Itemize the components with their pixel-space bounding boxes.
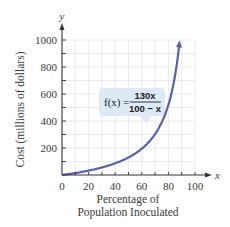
y-tick-label: 200	[41, 142, 58, 154]
x-tick-label: 0	[59, 180, 65, 192]
x-axis-arrow-icon	[205, 173, 212, 178]
y-tick-label: 800	[41, 61, 58, 73]
y-tick-label: 400	[41, 115, 58, 127]
x-axis-variable: x	[214, 169, 220, 181]
x-tick-label: 100	[187, 180, 204, 192]
x-tick-label: 60	[136, 180, 148, 192]
x-tick-label: 80	[163, 180, 175, 192]
curve-arrow-icon	[176, 40, 182, 47]
y-axis-arrow-icon	[60, 23, 65, 30]
x-axis-title-line-1: Percentage of	[97, 193, 160, 206]
y-axis-title: Cost (millions of dollars)	[14, 51, 27, 167]
callout-function-label: f(x) =	[104, 96, 129, 109]
callout-denominator: 100 − x	[129, 103, 162, 114]
y-axis-variable: y	[59, 10, 65, 22]
x-tick-label: 20	[83, 180, 95, 192]
y-tick-label: 1000	[35, 34, 58, 46]
chart: f(x) = 130x 100 − x 02040608010020040060…	[0, 0, 230, 227]
x-tick-label: 40	[110, 180, 122, 192]
y-tick-label: 600	[41, 88, 58, 100]
x-axis-title-line-2: Population Inoculated	[77, 206, 178, 219]
callout-numerator: 130x	[134, 90, 156, 101]
